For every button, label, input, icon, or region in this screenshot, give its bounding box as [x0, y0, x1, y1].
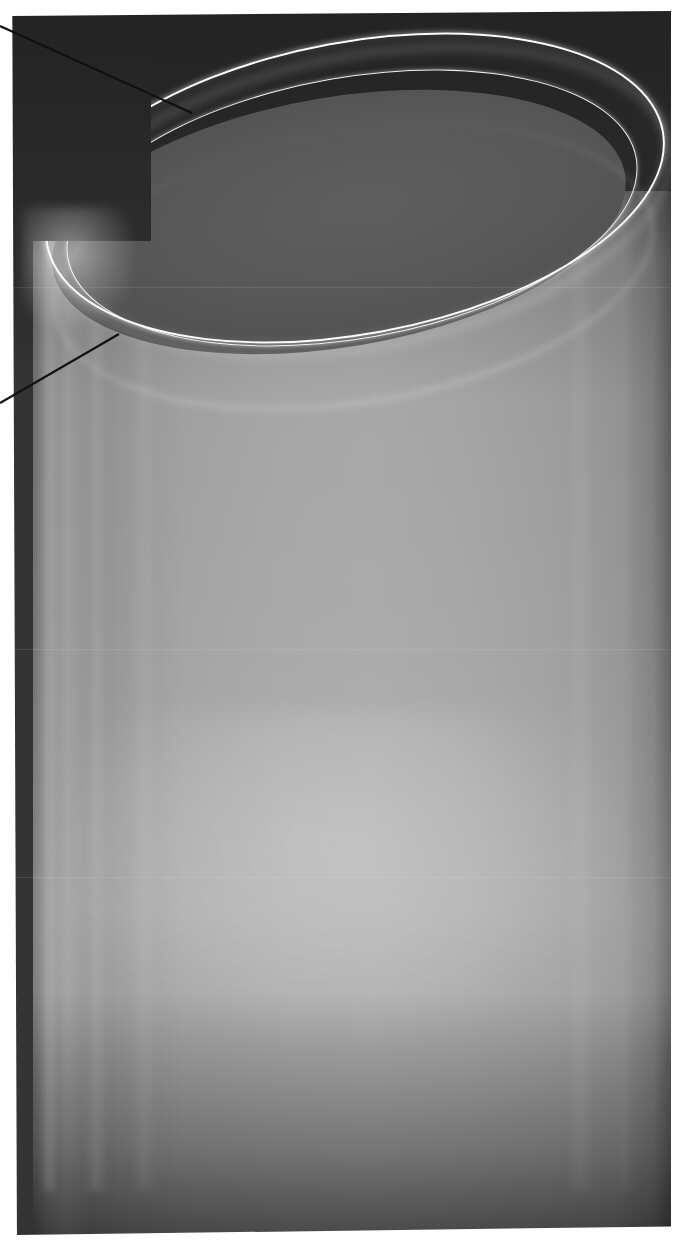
figure-root — [0, 0, 679, 1245]
film-grain — [11, 11, 671, 1235]
photograph-plate — [11, 11, 671, 1235]
